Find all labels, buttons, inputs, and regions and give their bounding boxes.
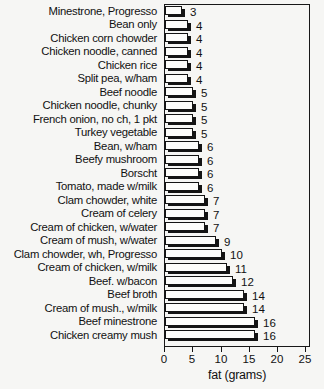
bar-value-label: 5 (201, 87, 207, 99)
x-axis-tick (164, 347, 165, 352)
category-label: Chicken rice (0, 59, 157, 72)
bar-face (165, 168, 199, 177)
category-label: Chicken corn chowder (0, 32, 157, 45)
bar-face (165, 222, 205, 231)
category-labels: Minestrone, ProgressoBean onlyChicken co… (0, 4, 159, 345)
category-label: Beef noodle (0, 86, 157, 99)
bar-face (165, 303, 244, 312)
bar-value-label: 7 (213, 195, 219, 207)
category-label: Beef minestrone (0, 315, 157, 328)
x-axis: 0510152025 (164, 345, 324, 389)
bar-face (165, 141, 199, 150)
bar-face (165, 87, 193, 96)
bar-value-label: 4 (196, 74, 202, 86)
category-label: Cream of celery (0, 207, 157, 220)
bar-value-label: 10 (230, 249, 243, 261)
x-axis-tick-label: 20 (265, 353, 289, 365)
bar-value-label: 9 (224, 236, 230, 248)
x-axis-tick-label: 25 (293, 353, 317, 365)
bar-face (165, 195, 205, 204)
x-axis-title: fat (grams) (164, 368, 310, 382)
x-axis-tick-label: 5 (180, 353, 204, 365)
x-axis-tick-label: 10 (209, 353, 233, 365)
bar-face (165, 128, 193, 137)
bar-value-label: 6 (207, 141, 213, 153)
category-label: Clam chowder, white (0, 194, 157, 207)
plot-frame: 34444455556666777910111214141616 (164, 4, 310, 347)
bar-face (165, 276, 233, 285)
category-label: Minestrone, Progresso (0, 5, 157, 18)
x-axis-tick-label: 15 (237, 353, 261, 365)
category-label: Chicken noodle, chunky (0, 99, 157, 112)
bar-value-label: 4 (196, 47, 202, 59)
bar-face (165, 114, 193, 123)
bar-face (165, 74, 188, 83)
category-label: Chicken noodle, canned (0, 45, 157, 58)
bar-face (165, 155, 199, 164)
x-axis-tick-label: 0 (152, 353, 176, 365)
bar-value-label: 4 (196, 60, 202, 72)
category-label: Beef broth (0, 288, 157, 301)
bar-value-label: 6 (207, 182, 213, 194)
category-label: Bean, w/ham (0, 140, 157, 153)
bar-value-label: 12 (241, 276, 254, 288)
bar-value-label: 4 (196, 20, 202, 32)
bar-value-label: 16 (263, 317, 276, 329)
bar-value-label: 6 (207, 155, 213, 167)
bar-value-label: 7 (213, 222, 219, 234)
category-label: Bean only (0, 18, 157, 31)
bar-face (165, 236, 216, 245)
bar-value-label: 3 (190, 6, 196, 18)
category-label: Chicken creamy mush (0, 329, 157, 342)
bar-value-label: 16 (263, 330, 276, 342)
x-axis-tick (249, 347, 250, 352)
category-label: Split pea, w/ham (0, 72, 157, 85)
category-label: Cream of mush, w/water (0, 234, 157, 247)
bar-value-label: 5 (201, 128, 207, 140)
x-axis-tick (277, 347, 278, 352)
bar-face (165, 60, 188, 69)
bar-face (165, 330, 255, 339)
category-label: Tomato, made w/milk (0, 180, 157, 193)
category-label: Cream of chicken, w/milk (0, 261, 157, 274)
bar-face (165, 182, 199, 191)
bar-face (165, 33, 188, 42)
category-label: Turkey vegetable (0, 126, 157, 139)
x-axis-tick (192, 347, 193, 352)
x-axis-tick (221, 347, 222, 352)
bar-face (165, 209, 205, 218)
bars-layer: 34444455556666777910111214141616 (165, 5, 309, 346)
category-label: Cream of mush., w/milk (0, 302, 157, 315)
bar-face (165, 249, 222, 258)
category-label: Cream of chicken, w/water (0, 221, 157, 234)
bar-value-label: 7 (213, 209, 219, 221)
category-label: Beef. w/bacon (0, 275, 157, 288)
category-label: Borscht (0, 167, 157, 180)
bar-face (165, 263, 227, 272)
fat-grams-bar-chart: Minestrone, ProgressoBean onlyChicken co… (0, 0, 324, 389)
bar-face (165, 47, 188, 56)
category-label: Clam chowder, wh, Progresso (0, 248, 157, 261)
bar-value-label: 14 (252, 290, 265, 302)
bar-value-label: 14 (252, 303, 265, 315)
bar-value-label: 4 (196, 33, 202, 45)
bar-value-label: 5 (201, 114, 207, 126)
bar-face (165, 290, 244, 299)
category-label: French onion, no ch, 1 pkt (0, 113, 157, 126)
category-label: Beefy mushroom (0, 153, 157, 166)
bar-face (165, 6, 182, 15)
bar-face (165, 317, 255, 326)
bar-value-label: 5 (201, 101, 207, 113)
bar-value-label: 11 (235, 263, 247, 275)
bar-value-label: 6 (207, 168, 213, 180)
x-axis-tick (305, 347, 306, 352)
bar-face (165, 101, 193, 110)
bar-face (165, 20, 188, 29)
